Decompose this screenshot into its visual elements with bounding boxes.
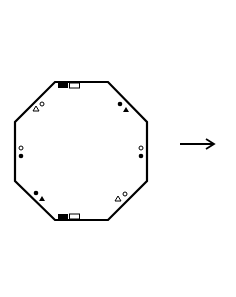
- left-open-circle-icon: [19, 146, 23, 150]
- right-arrow-icon: [180, 139, 214, 149]
- top-left-open-circle-icon: [40, 102, 44, 106]
- bottom-right-open-circle-icon: [123, 192, 127, 196]
- octagon-shape: [15, 82, 147, 220]
- top-right-filled-circle-icon: [118, 102, 123, 107]
- left-filled-circle-icon: [19, 154, 24, 159]
- bottom-left-filled-circle-icon: [34, 191, 39, 196]
- bottom-filled-rectangle: [58, 214, 68, 220]
- octagon-diagram: [0, 0, 236, 297]
- bottom-right-open-triangle-icon: [115, 196, 121, 201]
- bottom-left-filled-triangle-icon: [39, 196, 45, 201]
- top-open-rectangle: [70, 83, 80, 88]
- top-filled-rectangle: [58, 82, 68, 88]
- right-filled-circle-icon: [139, 154, 144, 159]
- right-open-circle-icon: [139, 146, 143, 150]
- bottom-open-rectangle: [70, 214, 80, 219]
- top-right-filled-triangle-icon: [123, 107, 129, 112]
- top-left-open-triangle-icon: [33, 106, 39, 111]
